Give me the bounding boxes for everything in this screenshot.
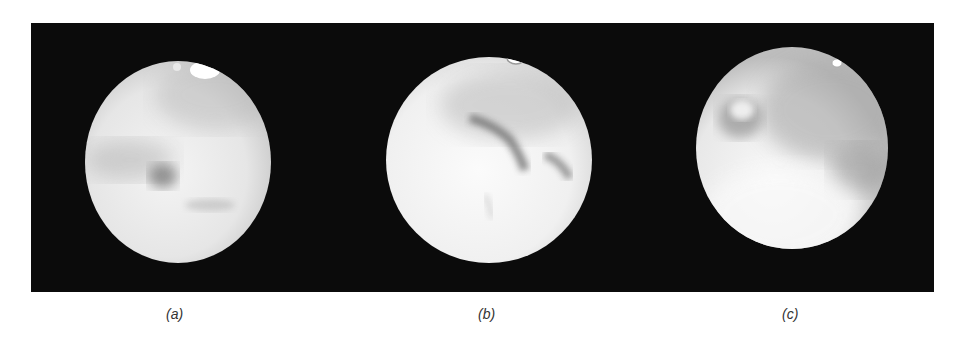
panel-label-c: (c) <box>782 306 798 322</box>
panel-label-b: (b) <box>478 306 495 322</box>
planet-drawings <box>0 0 959 341</box>
planet-disc-b <box>386 52 592 263</box>
planet-disc-a <box>85 60 275 263</box>
panel-label-a: (a) <box>166 306 183 322</box>
planet-disc-c <box>696 47 900 265</box>
